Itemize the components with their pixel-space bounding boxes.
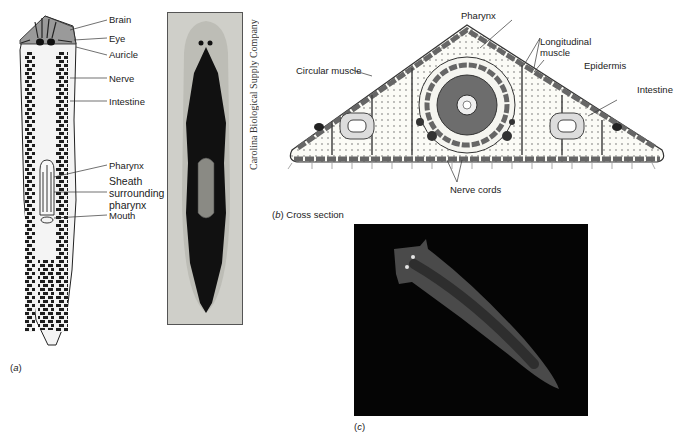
label-longitudinal-line2: muscle xyxy=(540,47,591,58)
label-sheath: Sheath surrounding pharynx xyxy=(109,175,164,211)
label-nerve: Nerve xyxy=(109,73,134,84)
label-auricle: Auricle xyxy=(109,49,138,60)
caption-a: (a) xyxy=(10,362,22,373)
label-mouth: Mouth xyxy=(109,210,135,221)
caption-b-text: Cross section xyxy=(286,209,344,220)
label-pharynx-a: Pharynx xyxy=(109,160,144,171)
pharynx-shape xyxy=(40,160,54,223)
photo-eye-left xyxy=(199,41,204,46)
label-sheath-line2: surrounding xyxy=(109,187,164,199)
photo-credit: Carolina Biological Supply Company xyxy=(248,10,262,170)
planarian-stained-photo xyxy=(167,12,243,325)
label-epidermis: Epidermis xyxy=(584,60,626,71)
cross-section-diagram xyxy=(272,10,677,180)
label-circular-muscle: Circular muscle xyxy=(296,65,361,76)
nucleus-right xyxy=(612,123,622,131)
nerve-node-2 xyxy=(427,131,437,141)
label-nerve-cords: Nerve cords xyxy=(450,184,501,195)
label-longitudinal-line1: Longitudinal xyxy=(540,36,591,47)
label-pharynx-b: Pharynx xyxy=(461,10,496,21)
planarian-eye-2 xyxy=(405,265,409,269)
planarian-eye-1 xyxy=(411,255,415,259)
label-intestine-b: Intestine xyxy=(637,84,673,95)
nucleus-left xyxy=(314,123,324,131)
label-intestine-a: Intestine xyxy=(109,96,145,107)
label-sheath-line1: Sheath xyxy=(109,175,164,187)
photo-eye-right xyxy=(208,41,213,46)
intestine-right xyxy=(550,113,584,139)
caption-c: (c) xyxy=(354,421,365,432)
caption-b: (b) Cross section xyxy=(272,209,344,220)
intestine-left xyxy=(340,113,374,139)
cilia xyxy=(288,163,655,169)
eye-icon-left xyxy=(36,39,44,46)
label-eye: Eye xyxy=(109,33,125,44)
nerve-node-1 xyxy=(416,118,424,126)
planarian-live-photo xyxy=(354,224,588,416)
caption-b-letter: b xyxy=(275,209,280,220)
nerve-node-3 xyxy=(509,119,515,125)
nerve-node-4 xyxy=(502,131,512,141)
label-longitudinal-muscle: Longitudinal muscle xyxy=(540,36,591,58)
photo-pharynx xyxy=(198,158,214,218)
label-brain: Brain xyxy=(109,14,131,25)
caption-a-letter: a xyxy=(13,362,18,373)
eye-icon-right xyxy=(47,39,55,46)
caption-c-letter: c xyxy=(357,421,362,432)
